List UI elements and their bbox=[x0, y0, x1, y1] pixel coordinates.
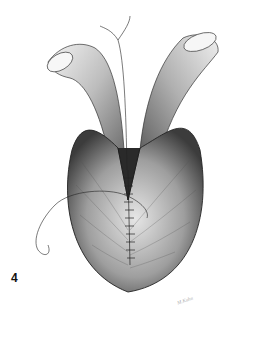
surgical-illustration bbox=[0, 0, 255, 344]
opened-pouch bbox=[68, 128, 204, 292]
figure-number: 4 bbox=[11, 271, 18, 285]
